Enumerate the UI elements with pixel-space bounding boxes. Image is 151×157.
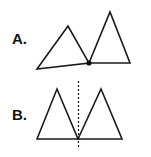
- triangle-b-left: [37, 89, 78, 139]
- joint-dot: [86, 60, 91, 65]
- triangle-a-right: [89, 12, 130, 63]
- triangle-b-right: [78, 89, 122, 139]
- triangle-a-left: [37, 26, 89, 69]
- panel-a: [37, 12, 130, 69]
- figure-canvas: [0, 0, 151, 157]
- panel-b: [37, 81, 122, 149]
